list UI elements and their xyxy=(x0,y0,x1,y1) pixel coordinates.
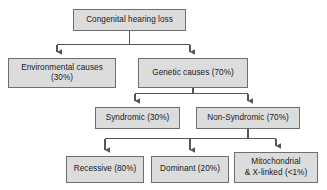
node-mitochondrial-x-linked: Mitochondrial & X-linked (<1%) xyxy=(234,152,318,183)
node-non-syndromic: Non-Syndromic (70%) xyxy=(196,107,300,129)
flowchart-diagram: Congenital hearing loss Environmental ca… xyxy=(0,0,327,190)
node-syndromic: Syndromic (30%) xyxy=(95,107,180,129)
node-environmental-causes: Environmental causes (30%) xyxy=(8,58,116,88)
node-dominant: Dominant (20%) xyxy=(151,156,229,183)
node-congenital-hearing-loss: Congenital hearing loss xyxy=(73,9,186,31)
node-genetic-causes: Genetic causes (70%) xyxy=(138,58,248,88)
node-recessive: Recessive (80%) xyxy=(66,156,144,183)
